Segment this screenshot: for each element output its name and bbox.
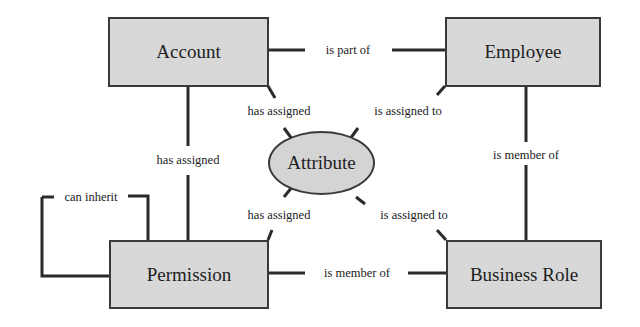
node-permission: Permission <box>109 240 269 309</box>
edge-label-business-role-attribute: is assigned to <box>380 208 447 222</box>
edge-label-account-employee: is part of <box>326 43 370 57</box>
node-business-role-label: Business Role <box>470 264 578 286</box>
node-permission-label: Permission <box>147 264 231 286</box>
node-employee-label: Employee <box>484 41 561 63</box>
node-attribute: Attribute <box>268 131 375 195</box>
edge-label-employee-business-role: is member of <box>493 148 559 162</box>
edge-label-permission-self: can inherit <box>64 190 117 204</box>
edge-label-employee-attribute: is assigned to <box>374 104 441 118</box>
node-employee: Employee <box>445 17 601 87</box>
node-attribute-label: Attribute <box>287 152 356 174</box>
edge-label-permission-attribute: has assigned <box>248 208 311 222</box>
node-account: Account <box>108 17 269 87</box>
edge-label-account-attribute: has assigned <box>248 104 311 118</box>
edge-label-account-permission: has assigned <box>157 153 220 167</box>
edge-label-permission-business-role: is member of <box>324 266 390 280</box>
node-account-label: Account <box>156 41 220 63</box>
node-business-role: Business Role <box>446 240 602 309</box>
